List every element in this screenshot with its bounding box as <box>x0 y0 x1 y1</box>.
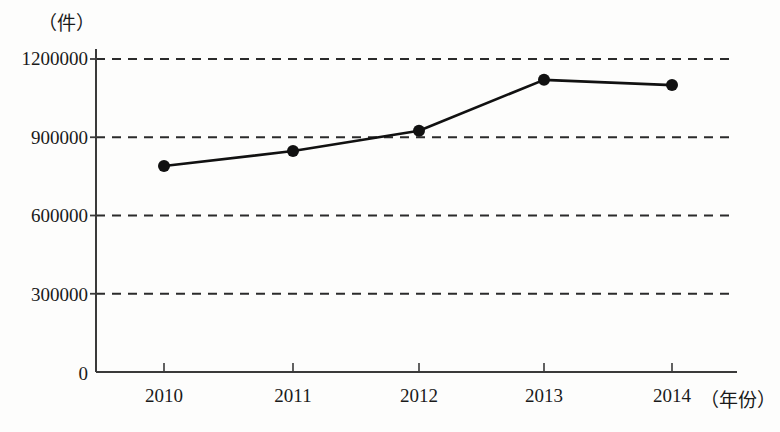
x-axis-ticks <box>164 363 672 372</box>
data-point-2011 <box>287 145 299 157</box>
data-point-2012 <box>413 125 425 137</box>
chart-page: （件） （年份） 1200000 900000 600000 300000 0 … <box>0 0 780 432</box>
data-point-2013 <box>538 74 550 86</box>
data-point-2014 <box>666 79 678 91</box>
line-chart <box>0 0 780 432</box>
axes <box>96 49 737 372</box>
gridlines <box>96 59 735 294</box>
data-point-2010 <box>158 160 170 172</box>
series-line <box>164 80 672 166</box>
